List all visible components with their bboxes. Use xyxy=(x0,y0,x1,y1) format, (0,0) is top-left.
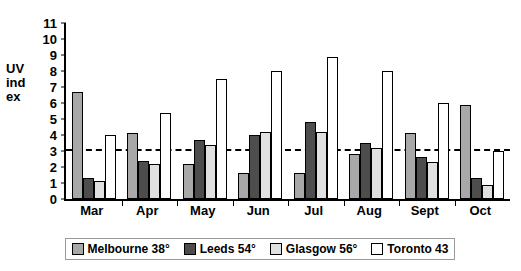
y-axis-tick: 7 xyxy=(50,81,66,94)
y-axis-tick: 4 xyxy=(50,129,66,142)
y-axis-tick: 1 xyxy=(50,177,66,190)
bar xyxy=(271,71,282,199)
x-axis-label: Jun xyxy=(231,203,287,218)
bar xyxy=(149,164,160,199)
bar xyxy=(138,161,149,199)
y-axis-label: UV ind ex xyxy=(6,62,46,104)
plot-area: 01234567891011 xyxy=(64,23,510,201)
y-axis-tick-label: 2 xyxy=(50,161,61,174)
bar xyxy=(216,79,227,199)
bar-group xyxy=(288,23,344,199)
chart-legend: Melbourne 38°Leeds 54°Glasgow 56°Toronto… xyxy=(65,238,455,260)
bar xyxy=(205,145,216,199)
bar-group xyxy=(122,23,178,199)
y-axis-tick-label: 3 xyxy=(50,145,61,158)
y-axis-tick: 8 xyxy=(50,65,66,78)
legend-swatch-glasgow xyxy=(270,243,282,255)
bar-group xyxy=(399,23,455,199)
legend-item-glasgow[interactable]: Glasgow 56° xyxy=(270,242,358,256)
y-axis-tick: 11 xyxy=(43,17,66,30)
bar xyxy=(382,71,393,199)
y-axis-tick-label: 10 xyxy=(43,33,61,46)
bar-group xyxy=(177,23,233,199)
legend-item-melbourne[interactable]: Melbourne 38° xyxy=(72,242,170,256)
bar xyxy=(416,157,427,199)
bar xyxy=(360,143,371,199)
bar-group xyxy=(455,23,511,199)
bar-groups xyxy=(66,23,510,199)
bar xyxy=(493,151,504,199)
bar xyxy=(471,178,482,199)
y-axis-tick: 6 xyxy=(50,97,66,110)
legend-swatch-leeds xyxy=(184,243,196,255)
bar xyxy=(194,140,205,199)
bar xyxy=(405,133,416,199)
y-axis-tick-label: 8 xyxy=(50,65,61,78)
bar-group xyxy=(344,23,400,199)
x-axis-label: Sept xyxy=(397,203,453,218)
legend-label: Glasgow 56° xyxy=(286,242,358,256)
x-axis-label: Mar xyxy=(64,203,120,218)
legend-swatch-melbourne xyxy=(72,243,84,255)
y-axis-label-line-2: ind xyxy=(6,76,46,90)
bar xyxy=(105,135,116,199)
bar xyxy=(183,164,194,199)
y-axis-tick: 9 xyxy=(50,49,66,62)
bar xyxy=(327,57,338,199)
bar-group xyxy=(233,23,289,199)
y-axis-tick-label: 7 xyxy=(50,81,61,94)
x-axis-label: May xyxy=(175,203,231,218)
legend-label: Leeds 54° xyxy=(200,242,256,256)
y-axis-tick: 2 xyxy=(50,161,66,174)
y-axis-tick-label: 11 xyxy=(43,17,61,30)
bar xyxy=(94,181,105,199)
x-axis-label: Oct xyxy=(453,203,509,218)
y-axis-label-line-1: UV xyxy=(6,62,46,76)
y-axis-label-line-3: ex xyxy=(6,90,46,104)
legend-label: Toronto 43 xyxy=(387,242,448,256)
bar xyxy=(249,135,260,199)
x-axis-label: Apr xyxy=(120,203,176,218)
bar xyxy=(438,103,449,199)
x-axis-labels: MarAprMayJunJulAugSeptOct xyxy=(64,203,508,218)
legend-swatch-toronto xyxy=(371,243,383,255)
uv-index-bar-chart: UV ind ex 01234567891011 MarAprMayJunJul… xyxy=(0,0,521,271)
y-axis-tick-label: 1 xyxy=(50,177,61,190)
bar-group xyxy=(66,23,122,199)
bar xyxy=(127,133,138,199)
bar xyxy=(316,132,327,199)
y-axis-tick: 5 xyxy=(50,113,66,126)
y-axis-tick-label: 4 xyxy=(50,129,61,142)
y-axis-tick-label: 9 xyxy=(50,49,61,62)
x-axis-label: Aug xyxy=(342,203,398,218)
bar xyxy=(83,178,94,199)
legend-label: Melbourne 38° xyxy=(88,242,170,256)
y-axis-tick: 3 xyxy=(50,145,66,158)
bar xyxy=(349,154,360,199)
bar xyxy=(260,132,271,199)
legend-item-leeds[interactable]: Leeds 54° xyxy=(184,242,256,256)
bar xyxy=(482,185,493,199)
bar xyxy=(460,105,471,199)
bar xyxy=(371,148,382,199)
legend-item-toronto[interactable]: Toronto 43 xyxy=(371,242,448,256)
y-axis-tick-label: 5 xyxy=(50,113,61,126)
x-axis-label: Jul xyxy=(286,203,342,218)
y-axis-tick-label: 6 xyxy=(50,97,61,110)
bar xyxy=(427,162,438,199)
bar xyxy=(160,113,171,199)
bar xyxy=(238,173,249,199)
y-axis-tick: 10 xyxy=(43,33,66,46)
bar xyxy=(305,122,316,199)
bar xyxy=(72,92,83,199)
bar xyxy=(294,173,305,199)
y-axis-tick-label: 0 xyxy=(50,193,61,206)
